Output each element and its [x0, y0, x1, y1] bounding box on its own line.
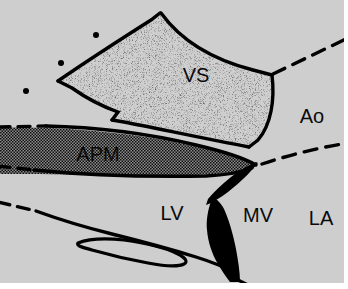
- marker-dot: [23, 88, 29, 94]
- figure-canvas: VS APM LV MV Ao LA: [0, 0, 348, 289]
- marker-dot: [93, 32, 99, 38]
- label-ao: Ao: [300, 105, 324, 127]
- label-lv: LV: [161, 202, 185, 224]
- label-apm: APM: [76, 143, 119, 165]
- apm-border-top-dashed: [0, 126, 46, 127]
- marker-dot: [58, 60, 64, 66]
- label-vs: VS: [183, 64, 210, 86]
- anatomical-figure: VS APM LV MV Ao LA: [0, 0, 348, 289]
- label-la: LA: [309, 207, 334, 229]
- label-mv: MV: [243, 204, 274, 226]
